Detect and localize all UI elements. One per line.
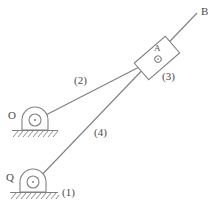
link-label-1: (1) (62, 187, 75, 198)
link-label-2: (2) (74, 75, 87, 86)
mechanism-diagram (0, 0, 217, 212)
point-label-q: Q (6, 172, 14, 183)
support-o-pin-dot (34, 119, 36, 121)
link-label-3: (3) (162, 71, 175, 82)
support-q (10, 169, 59, 199)
link-4-line (36, 13, 197, 181)
point-label-a: A (154, 44, 161, 53)
support-q-hatching (11, 193, 59, 199)
support-o-hatching (13, 131, 58, 137)
point-label-o: O (8, 110, 16, 121)
figure-canvas: O Q B A (1) (2) (3) (4) (0, 0, 217, 212)
link-2-line (38, 62, 149, 119)
support-o (12, 107, 58, 137)
point-label-b: B (201, 6, 208, 17)
link-label-4: (4) (94, 127, 107, 138)
support-q-pin-dot (32, 181, 34, 183)
